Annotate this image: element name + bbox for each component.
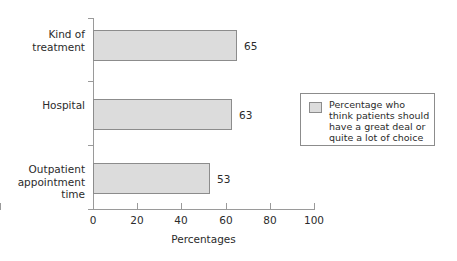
x-axis-tick-label: 0 <box>90 214 97 226</box>
y-axis-tick <box>88 145 94 146</box>
x-axis-title: Percentages <box>93 233 314 245</box>
y-axis-tick <box>88 81 94 82</box>
x-axis-tick <box>314 203 315 210</box>
bar-value-hospital: 63 <box>239 109 252 121</box>
legend: Percentage who think patients should hav… <box>300 93 435 146</box>
legend-swatch-icon <box>309 102 322 113</box>
bar-value-outpatient-appointment-time: 53 <box>217 173 230 185</box>
x-axis-tick-label: 60 <box>219 214 232 226</box>
x-axis-tick <box>0 203 1 210</box>
category-label-kind-of-treatment: Kind of treatment <box>32 28 85 53</box>
y-axis-tick <box>88 18 94 19</box>
bar-value-kind-of-treatment: 65 <box>244 40 257 52</box>
bar-kind-of-treatment <box>93 30 237 61</box>
x-axis-tick <box>270 203 271 210</box>
x-axis-tick <box>181 203 182 210</box>
legend-label: Percentage who think patients should hav… <box>329 99 430 143</box>
x-axis-tick <box>226 203 227 210</box>
x-axis-tick-label: 100 <box>304 214 324 226</box>
x-axis-tick <box>93 203 94 210</box>
category-label-outpatient-appointment-time: Outpatient appointment time <box>18 163 85 201</box>
x-axis-tick-label: 20 <box>130 214 143 226</box>
bar-hospital <box>93 99 232 130</box>
bar-chart: 0 20 40 60 80 100 Percentages Kind of tr… <box>0 0 457 261</box>
category-label-hospital: Hospital <box>42 99 85 112</box>
x-axis-tick-label: 80 <box>263 214 276 226</box>
x-axis-tick <box>137 203 138 210</box>
bar-outpatient-appointment-time <box>93 163 210 194</box>
x-axis-line <box>93 209 315 210</box>
x-axis-tick-label: 40 <box>174 214 187 226</box>
